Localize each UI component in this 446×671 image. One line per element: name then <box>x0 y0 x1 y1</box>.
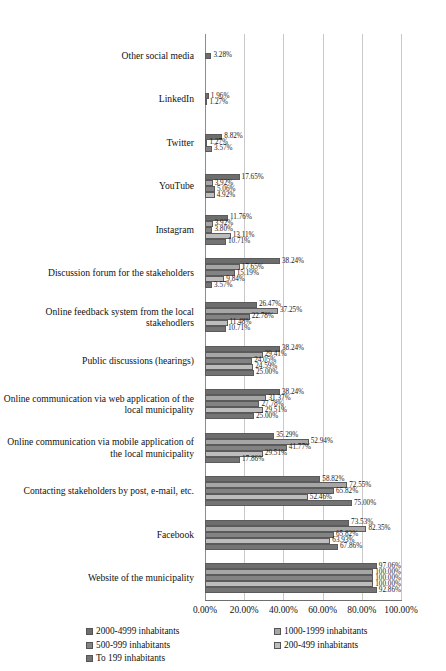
gridline <box>401 34 402 600</box>
bar-value-label: 25.00% <box>256 413 278 420</box>
category-axis-labels: Other social mediaLinkedInTwitterYouTube… <box>0 34 200 600</box>
bar-line: 3.57% <box>205 146 401 152</box>
bar-line: 10.71% <box>205 239 401 245</box>
bar-group: 38.24%31.37%27.78%29.51%25.00% <box>205 382 401 426</box>
bar-line: 3.28% <box>205 53 401 59</box>
category-label: Discussion forum for the stakeholders <box>0 267 194 279</box>
legend-label: To 199 inhabitants <box>96 653 165 664</box>
legend-swatch <box>86 642 93 649</box>
bar-value-label: 25.00% <box>256 369 278 376</box>
x-tick-label: 80.00% <box>347 604 376 617</box>
bar-group: 58.82%72.55%65.82%52.46%75.00% <box>205 469 401 513</box>
bar-value-label: 3.57% <box>214 145 233 152</box>
x-tick-label: 100.00% <box>384 604 418 617</box>
bar <box>205 53 211 59</box>
bar <box>205 282 212 288</box>
bar-value-label: 3.28% <box>213 52 232 59</box>
bar-line: 4.92% <box>205 192 401 198</box>
bar-line: 10.71% <box>205 326 401 332</box>
bar <box>205 192 215 198</box>
bar <box>205 370 254 376</box>
category-label: Instagram <box>0 224 194 236</box>
bar-line: 3.57% <box>205 282 401 288</box>
bar <box>205 413 254 419</box>
legend-swatch <box>86 655 93 662</box>
bar-value-label: 67.86% <box>340 543 362 550</box>
bar-line: 67.86% <box>205 544 401 550</box>
x-axis-tick-labels: 0.00%20.00%40.00%60.00%80.00%100.00% <box>180 604 446 618</box>
bar-value-label: 75.00% <box>354 500 376 507</box>
bar <box>205 457 240 463</box>
legend-item[interactable]: 1000-1999 inhabitants <box>274 625 426 639</box>
legend-label: 1000-1999 inhabitants <box>284 626 367 637</box>
x-tick-label: 0.00% <box>193 604 217 617</box>
bar-group: 73.53%82.35%65.82%63.93%67.86% <box>205 513 401 557</box>
legend-label: 2000-4999 inhabitants <box>96 626 179 637</box>
bar-value-label: 17.86% <box>242 456 264 463</box>
legend-item[interactable]: 200-499 inhabitants <box>274 639 426 653</box>
x-tick-label: 60.00% <box>308 604 337 617</box>
legend-label: 200-499 inhabitants <box>284 640 358 651</box>
legend-swatch <box>86 628 93 635</box>
bar <box>205 587 377 593</box>
bar-rows: 3.28%1.96%1.27%8.82%1.27%3.57%17.65%3.92… <box>205 34 401 600</box>
bar <box>205 544 338 550</box>
category-label: Public discussions (hearings) <box>0 355 194 367</box>
bar-group: 1.96%1.27% <box>205 78 401 122</box>
bar-value-label: 10.71% <box>228 325 250 332</box>
bar-line: 25.00% <box>205 413 401 419</box>
bar-group: 8.82%1.27%3.57% <box>205 121 401 165</box>
category-label: Contacting stakeholders by post, e-mail,… <box>0 485 194 497</box>
category-label: LinkedIn <box>0 93 194 105</box>
bar-line: 25.00% <box>205 370 401 376</box>
category-label: Twitter <box>0 137 194 149</box>
bar-line: 92.86% <box>205 587 401 593</box>
category-label: Facebook <box>0 529 194 541</box>
legend-item[interactable]: To 199 inhabitants <box>86 652 218 666</box>
bar-value-label: 10.71% <box>228 238 250 245</box>
bar-line: 75.00% <box>205 500 401 506</box>
legend-item[interactable]: 500-999 inhabitants <box>86 639 218 653</box>
bar-value-label: 3.57% <box>214 282 233 289</box>
bar-group: 38.24%29.41%24.05%24.59%25.00% <box>205 339 401 383</box>
bar <box>205 239 226 245</box>
bar-group: 11.76%3.92%3.80%13.11%10.71% <box>205 208 401 252</box>
bar-chart: Other social mediaLinkedInTwitterYouTube… <box>0 0 446 671</box>
category-label: Online communication via web application… <box>0 393 194 416</box>
bar-group: 26.47%37.25%22.78%11.48%10.71% <box>205 295 401 339</box>
bar-group: 38.24%17.65%15.19%9.84%3.57% <box>205 252 401 296</box>
category-label: YouTube <box>0 180 194 192</box>
legend-item[interactable]: 2000-4999 inhabitants <box>86 625 218 639</box>
bar <box>205 500 352 506</box>
bar <box>205 99 207 105</box>
bar-group: 97.06%100.00%100.00%100.00%92.86% <box>205 556 401 600</box>
bar-value-label: 4.92% <box>217 192 236 199</box>
legend-label: 500-999 inhabitants <box>96 640 170 651</box>
bar-value-label: 92.86% <box>379 587 401 594</box>
bar-group: 17.65%3.92%5.06%4.92% <box>205 165 401 209</box>
chart-legend: 2000-4999 inhabitants1000-1999 inhabitan… <box>86 625 426 669</box>
bar-group: 35.29%52.94%41.77%29.51%17.86% <box>205 426 401 470</box>
category-label: Online communication via mobile applicat… <box>0 436 194 459</box>
category-label: Online feedback system from the local st… <box>0 306 194 329</box>
category-label: Other social media <box>0 50 194 62</box>
category-label: Website of the municipality <box>0 572 194 584</box>
bar-group: 3.28% <box>205 34 401 78</box>
bar <box>205 146 212 152</box>
bar-value-label: 1.27% <box>209 99 228 106</box>
bar-line: 17.86% <box>205 457 401 463</box>
legend-swatch <box>274 642 281 649</box>
x-tick-label: 40.00% <box>269 604 298 617</box>
bar <box>205 326 226 332</box>
bar-line: 1.27% <box>205 99 401 105</box>
plot-area: 3.28%1.96%1.27%8.82%1.27%3.57%17.65%3.92… <box>205 34 401 600</box>
legend-swatch <box>274 628 281 635</box>
x-tick-label: 20.00% <box>230 604 259 617</box>
axis-baseline <box>205 600 402 601</box>
